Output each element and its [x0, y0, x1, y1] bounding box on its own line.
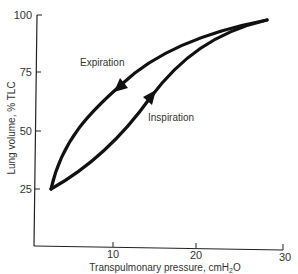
- x-axis-label-tail: O: [233, 262, 241, 273]
- x-axis-label: Transpulmonary pressure, cmH2O: [89, 262, 241, 274]
- y-tick-label: 50: [20, 125, 32, 137]
- y-axis-label: Lung volume, % TLC: [6, 81, 17, 174]
- inspiration-label: Inspiration: [148, 112, 194, 123]
- x-axis: [34, 246, 283, 250]
- x-axis-label-main: Transpulmonary pressure, cmH: [89, 262, 229, 273]
- y-tick-label: 25: [20, 183, 32, 195]
- expiration-curve: [51, 20, 267, 189]
- expiration-label: Expiration: [80, 57, 124, 68]
- y-tick-label: 75: [20, 66, 32, 78]
- inspiration-curve: [51, 20, 267, 189]
- x-tick-label: 30: [279, 251, 291, 263]
- x-tick-label: 20: [190, 249, 202, 261]
- pressure-volume-chart: 100 75 50 25 10 20 30 Lung volume, % TLC…: [0, 0, 298, 274]
- x-tick-label: 10: [107, 248, 119, 260]
- y-tick-label: 100: [14, 9, 32, 21]
